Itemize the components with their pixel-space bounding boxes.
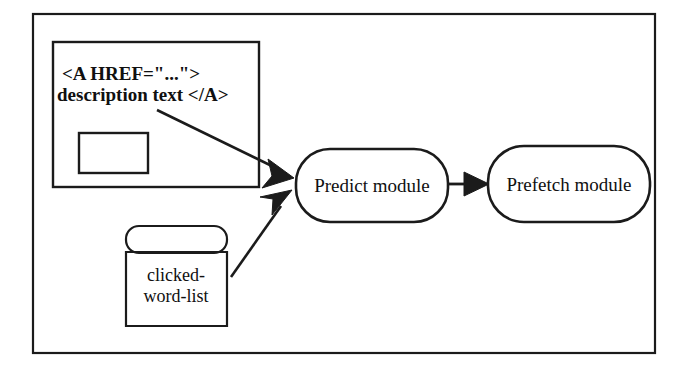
inline-image-placeholder-rect [79, 133, 148, 173]
datastore-label-line2: word-list [144, 286, 209, 306]
html-anchor-line2: description text </A> [57, 84, 229, 105]
edge-predict-to-prefetch [448, 172, 489, 196]
edge-wordlist-to-predict [231, 190, 292, 277]
edge-anchor-to-predict [157, 110, 294, 188]
node-prefetch-module-label: Prefetch module [506, 174, 631, 195]
diagram-svg: <A HREF="..."> description text </A> cli… [0, 0, 691, 373]
datastore-label-line1: clicked- [147, 265, 205, 285]
html-anchor-line1: <A HREF="..."> [62, 63, 200, 84]
node-predict-module-label: Predict module [314, 175, 430, 196]
arrowhead-icon [464, 172, 489, 196]
diagram-canvas: <A HREF="..."> description text </A> cli… [0, 0, 691, 373]
